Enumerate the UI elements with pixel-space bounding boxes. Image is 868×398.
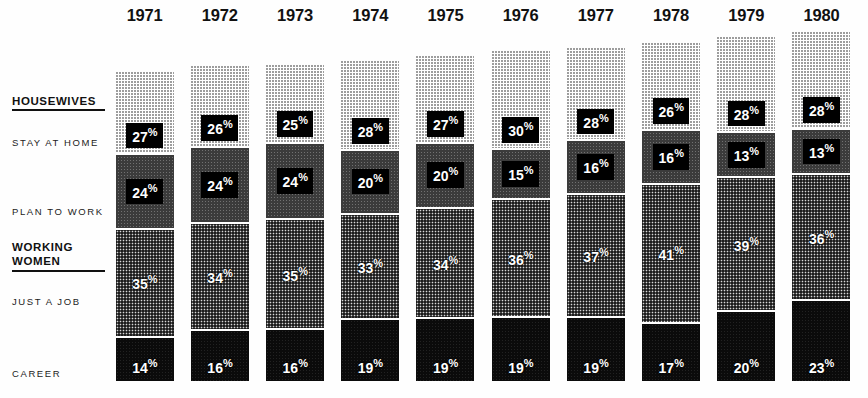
series-label-stay-at-home: STAY AT HOME (0, 137, 97, 148)
value-label-plan-to-work-1976: 15% (503, 162, 538, 186)
bar-segment-career-1974[interactable]: 19% (341, 320, 399, 381)
value-label-stay-at-home-1974: 28% (353, 119, 388, 143)
value-label-plan-to-work-1974: 20% (353, 170, 388, 194)
group-label-housewives-rule (12, 109, 105, 111)
series-label-stay-at-home-text: STAY AT HOME (12, 137, 97, 148)
bar-column-1972[interactable]: 26%24%34%16% (191, 66, 249, 381)
plot-area: 27%24%35%14%26%24%34%16%25%24%35%16%28%2… (107, 0, 859, 398)
bar-segment-stay-at-home-1979[interactable]: 28% (717, 37, 775, 133)
value-label-plan-to-work-1978: 16% (654, 145, 689, 169)
bar-segment-plan-to-work-1975[interactable]: 20% (416, 144, 474, 209)
bar-segment-just-a-job-1972[interactable]: 34% (191, 224, 249, 331)
value-label-stay-at-home-1976: 30% (503, 118, 538, 142)
bar-segment-just-a-job-1980[interactable]: 36% (792, 175, 850, 301)
value-label-stay-at-home-1978: 26% (654, 99, 689, 123)
value-label-stay-at-home-1980: 28% (804, 98, 839, 122)
bar-segment-stay-at-home-1975[interactable]: 27% (416, 56, 474, 144)
value-label-just-a-job-1975: 34% (433, 255, 458, 272)
bar-segment-career-1978[interactable]: 17% (642, 324, 700, 381)
value-label-plan-to-work-1971: 24% (127, 180, 162, 204)
value-label-stay-at-home-1977: 28% (578, 110, 613, 134)
bar-column-1978[interactable]: 26%16%41%17% (642, 43, 700, 381)
bar-segment-stay-at-home-1974[interactable]: 28% (341, 61, 399, 151)
value-label-just-a-job-1974: 33% (358, 258, 383, 275)
value-label-stay-at-home-1979: 28% (729, 102, 764, 126)
bar-segment-stay-at-home-1972[interactable]: 26% (191, 66, 249, 148)
value-label-just-a-job-1971: 35% (132, 274, 157, 291)
series-label-career: CAREER (0, 368, 97, 379)
value-label-stay-at-home-1973: 25% (278, 112, 313, 136)
bar-column-1977[interactable]: 28%16%37%19% (567, 48, 625, 381)
value-label-stay-at-home-1971: 27% (127, 124, 162, 148)
value-label-just-a-job-1973: 35% (283, 266, 308, 283)
bar-segment-career-1976[interactable]: 19% (492, 318, 550, 381)
value-label-career-1978: 17% (659, 358, 684, 375)
bar-segment-career-1971[interactable]: 14% (116, 338, 174, 381)
group-label-housewives: HOUSEWIVES (0, 95, 97, 111)
bar-column-1976[interactable]: 30%15%36%19% (492, 51, 550, 381)
category-legend: HOUSEWIVES STAY AT HOME PLAN TO WORK WOR… (0, 80, 103, 380)
bar-column-1979[interactable]: 28%13%39%20% (717, 37, 775, 381)
bar-segment-stay-at-home-1980[interactable]: 28% (792, 32, 850, 130)
bar-column-1975[interactable]: 27%20%34%19% (416, 56, 474, 381)
bar-segment-just-a-job-1978[interactable]: 41% (642, 185, 700, 324)
value-label-plan-to-work-1975: 20% (428, 163, 463, 187)
bar-column-1980[interactable]: 28%13%36%23% (792, 32, 850, 381)
bar-segment-stay-at-home-1973[interactable]: 25% (266, 65, 324, 144)
bar-segment-career-1979[interactable]: 20% (717, 312, 775, 381)
bar-segment-stay-at-home-1977[interactable]: 28% (567, 48, 625, 141)
bar-segment-career-1973[interactable]: 16% (266, 330, 324, 381)
bar-segment-just-a-job-1975[interactable]: 34% (416, 209, 474, 320)
bar-segment-plan-to-work-1980[interactable]: 13% (792, 130, 850, 175)
value-label-just-a-job-1976: 36% (508, 250, 533, 267)
group-label-working-women-line1: WORKING (12, 240, 97, 254)
bar-segment-just-a-job-1974[interactable]: 33% (341, 215, 399, 321)
bar-segment-career-1977[interactable]: 19% (567, 318, 625, 381)
value-label-plan-to-work-1979: 13% (729, 143, 764, 167)
value-label-career-1979: 20% (734, 358, 759, 375)
bar-segment-just-a-job-1976[interactable]: 36% (492, 200, 550, 319)
stacked-bar-chart: 1971 1972 1973 1974 1975 1976 1977 1978 … (0, 0, 868, 398)
bar-segment-plan-to-work-1978[interactable]: 16% (642, 131, 700, 185)
value-label-just-a-job-1972: 34% (207, 268, 232, 285)
group-label-working-women-rule (12, 270, 105, 272)
value-label-just-a-job-1979: 39% (734, 236, 759, 253)
value-label-career-1976: 19% (508, 358, 533, 375)
bar-segment-plan-to-work-1976[interactable]: 15% (492, 150, 550, 200)
bar-segment-stay-at-home-1976[interactable]: 30% (492, 51, 550, 150)
series-label-just-a-job: JUST A JOB (0, 296, 97, 307)
bar-segment-career-1980[interactable]: 23% (792, 301, 850, 381)
value-label-plan-to-work-1972: 24% (202, 173, 237, 197)
bar-segment-stay-at-home-1978[interactable]: 26% (642, 43, 700, 131)
group-label-working-women: WORKING WOMEN (0, 240, 97, 272)
group-label-working-women-line2: WOMEN (12, 254, 97, 268)
value-label-plan-to-work-1973: 24% (278, 169, 313, 193)
bar-segment-just-a-job-1973[interactable]: 35% (266, 220, 324, 331)
bar-segment-plan-to-work-1979[interactable]: 13% (717, 133, 775, 178)
bar-segment-plan-to-work-1972[interactable]: 24% (191, 148, 249, 224)
series-label-career-text: CAREER (12, 368, 97, 379)
series-label-plan-to-work: PLAN TO WORK (0, 206, 97, 217)
bar-column-1974[interactable]: 28%20%33%19% (341, 61, 399, 381)
bar-segment-plan-to-work-1977[interactable]: 16% (567, 141, 625, 194)
bar-segment-plan-to-work-1974[interactable]: 20% (341, 151, 399, 215)
bar-segment-career-1975[interactable]: 19% (416, 319, 474, 381)
value-label-career-1974: 19% (358, 358, 383, 375)
bar-column-1971[interactable]: 27%24%35%14% (116, 72, 174, 381)
bar-segment-career-1972[interactable]: 16% (191, 331, 249, 381)
value-label-career-1972: 16% (207, 358, 232, 375)
series-label-just-a-job-text: JUST A JOB (12, 296, 97, 307)
bar-column-1973[interactable]: 25%24%35%16% (266, 65, 324, 381)
value-label-stay-at-home-1972: 26% (202, 116, 237, 140)
bar-segment-stay-at-home-1971[interactable]: 27% (116, 72, 174, 155)
bar-segment-plan-to-work-1971[interactable]: 24% (116, 155, 174, 229)
value-label-plan-to-work-1980: 13% (804, 140, 839, 164)
bar-segment-just-a-job-1979[interactable]: 39% (717, 178, 775, 312)
value-label-just-a-job-1980: 36% (809, 229, 834, 246)
value-label-career-1975: 19% (433, 358, 458, 375)
value-label-career-1977: 19% (583, 358, 608, 375)
value-label-just-a-job-1978: 41% (659, 245, 684, 262)
bar-segment-just-a-job-1971[interactable]: 35% (116, 230, 174, 338)
bar-segment-plan-to-work-1973[interactable]: 24% (266, 144, 324, 220)
bar-segment-just-a-job-1977[interactable]: 37% (567, 195, 625, 318)
